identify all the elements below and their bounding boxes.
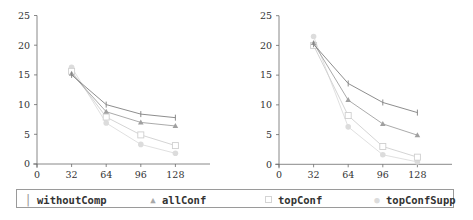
circle-marker-icon	[380, 152, 386, 158]
y-tick-label: 10	[18, 99, 30, 110]
legend-label: topConf	[278, 194, 322, 206]
series-line	[314, 37, 418, 162]
series-line	[72, 75, 176, 118]
legend-item-topconf: topConf	[264, 192, 322, 207]
square-marker-icon	[265, 196, 272, 203]
left-line-chart: 05101520250326496128	[18, 10, 210, 180]
x-tick-label: 0	[276, 169, 282, 180]
circle-marker-icon	[345, 124, 351, 130]
x-tick-label: 128	[408, 169, 426, 180]
y-tick-label: 15	[18, 69, 30, 80]
square-marker-icon	[172, 143, 178, 149]
legend-label: withoutComp	[37, 194, 107, 206]
axes: 05101520250326496128	[260, 10, 452, 180]
square-marker-icon	[345, 113, 351, 119]
legend-label: topConfSupp	[386, 194, 456, 206]
series-withoutcomp	[72, 72, 176, 121]
y-tick-label: 5	[266, 129, 272, 140]
circle-marker-icon	[173, 151, 179, 157]
right-line-chart: 05101520250326496128	[260, 10, 452, 180]
square-marker-icon	[138, 132, 144, 138]
chart-canvas: 05101520250326496128 0510152025032649612…	[0, 0, 473, 220]
x-tick-label: 96	[377, 169, 389, 180]
legend-item-allconf: ▲ allConf	[148, 192, 206, 207]
y-tick-label: 20	[18, 40, 30, 51]
circle-marker-icon	[311, 34, 317, 40]
series-allconf	[69, 71, 178, 128]
series-line	[72, 71, 176, 145]
y-tick-label: 15	[260, 69, 272, 80]
circle-marker-icon	[138, 142, 144, 148]
series-topconf	[69, 68, 179, 148]
x-tick-label: 32	[308, 169, 320, 180]
x-tick-label: 96	[135, 169, 147, 180]
x-tick-label: 64	[342, 169, 354, 180]
legend-label: allConf	[162, 194, 206, 206]
triangle-marker-icon	[345, 97, 351, 102]
circle-marker-icon: ●	[372, 195, 382, 205]
y-tick-label: 25	[18, 10, 30, 21]
square-marker-icon	[380, 143, 386, 149]
square-marker-icon	[414, 154, 420, 160]
square-marker-icon	[103, 114, 109, 120]
series-topconfsupp	[311, 34, 420, 165]
y-tick-label: 25	[260, 10, 272, 21]
y-tick-label: 0	[24, 158, 30, 169]
triangle-marker-icon	[380, 121, 386, 126]
legend-item-withoutcomp: | withoutComp	[23, 192, 107, 207]
y-tick-label: 5	[24, 129, 30, 140]
series-topconfsupp	[69, 64, 178, 156]
axes: 05101520250326496128	[18, 10, 210, 180]
x-tick-label: 64	[100, 169, 112, 180]
chart-legend: | withoutComp ▲ allConf topConf ● topCon…	[16, 189, 454, 208]
pipe-marker-icon: |	[23, 193, 33, 207]
series-line	[314, 43, 418, 135]
triangle-marker-icon: ▲	[148, 195, 158, 205]
circle-marker-icon	[103, 120, 109, 126]
x-tick-label: 0	[34, 169, 40, 180]
x-tick-label: 128	[166, 169, 184, 180]
y-tick-label: 10	[260, 99, 272, 110]
series-line	[72, 74, 176, 126]
y-tick-label: 0	[266, 159, 272, 170]
legend-item-topconfsupp: ● topConfSupp	[372, 192, 456, 207]
y-tick-label: 20	[260, 40, 272, 51]
x-tick-label: 32	[66, 169, 78, 180]
series-allconf	[311, 40, 420, 137]
